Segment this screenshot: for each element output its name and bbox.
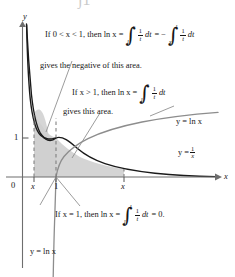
annotation-case-greater-than-one-line1: If x > 1, then ln x =x∫11tdt — [72, 86, 165, 100]
annotation-case-less-than-one-line1: If 0 < x < 1, then ln x =x∫11tdt= −1∫x1t… — [45, 28, 194, 42]
integral-lower-limit: 1 — [126, 39, 129, 45]
annotation-case-less-than-one-line2: gives the negative of this area. — [40, 62, 142, 71]
anno3-prefix: If x = 1, then ln x = — [55, 211, 120, 220]
anno1-equals-minus: = − — [155, 31, 167, 40]
integral2-lower-limit: x — [169, 39, 172, 45]
curve-label-lnx-bottom-text: y = ln x — [30, 247, 56, 256]
curve-label-natural-log-right: y = ln x — [176, 118, 202, 127]
integrand-denominator: t — [138, 35, 143, 42]
integral-x-to-1: 1∫x — [168, 28, 178, 42]
integral4-lower-limit: 1 — [123, 219, 126, 225]
integral-1-to-1: 1∫1 — [122, 208, 132, 222]
y-axis-label: y — [23, 12, 27, 21]
differential2-dt: dt — [188, 30, 195, 39]
anno2-prefix: If x > 1, then ln x = — [72, 89, 137, 98]
integral2-1-to-x: x∫1 — [139, 86, 149, 100]
x-axis-label: x — [224, 172, 228, 181]
annotation-case-equals-one: If x = 1, then ln x =1∫11tdt= 0. — [55, 208, 165, 222]
differential3-dt: dt — [159, 88, 166, 97]
differential-dt: dt — [145, 30, 152, 39]
ln-integral-figure: ∫1 — [0, 0, 235, 277]
integrand4-denominator: t — [135, 215, 140, 222]
leader-line-equals-one — [56, 177, 80, 206]
fraction-denominator: x — [190, 152, 195, 159]
y-tick-one-label: 1 — [14, 133, 18, 142]
fraction-one-over-x: 1x — [190, 146, 195, 160]
curve-label-recip-lhs: y = — [178, 148, 189, 157]
anno3-suffix: = 0. — [151, 211, 164, 220]
curve-label-reciprocal: y =1x — [178, 146, 196, 160]
integrand-one-over-t: 1t — [138, 28, 143, 42]
x-tick-right-label: x — [121, 182, 125, 191]
annotation-case-greater-than-one-line2: gives this area. — [63, 108, 113, 117]
leader-line-negative-area — [46, 61, 72, 132]
anno1-prefix: If 0 < x < 1, then ln x = — [45, 31, 123, 40]
integrand2-denominator: t — [180, 35, 185, 42]
x-tick-left-label: x — [31, 182, 35, 191]
integral-upper-limit: x — [132, 24, 135, 30]
x-tick-one-label: 1 — [54, 182, 58, 191]
integral3-upper-limit: x — [146, 82, 149, 88]
x-axis-arrowhead — [215, 174, 222, 181]
integrand3-denominator: t — [152, 93, 157, 100]
y-axis-arrowhead — [19, 21, 26, 27]
integrand2-one-over-t: 1t — [180, 28, 185, 42]
differential4-dt: dt — [142, 210, 149, 219]
curve-label-lnx-text: y = ln x — [176, 117, 202, 126]
integral2-upper-limit: 1 — [175, 24, 178, 30]
curve-natural-log — [53, 112, 218, 277]
integrand4-one-over-t: 1t — [135, 208, 140, 222]
curve-label-natural-log-bottom: y = ln x — [30, 248, 56, 257]
integral-1-to-x: x∫1 — [125, 28, 135, 42]
integral3-lower-limit: 1 — [140, 97, 143, 103]
integrand3-one-over-t: 1t — [152, 86, 157, 100]
integral4-upper-limit: 1 — [129, 204, 132, 210]
leader-line-lnx-right — [150, 106, 174, 116]
origin-label: 0 — [11, 181, 15, 190]
